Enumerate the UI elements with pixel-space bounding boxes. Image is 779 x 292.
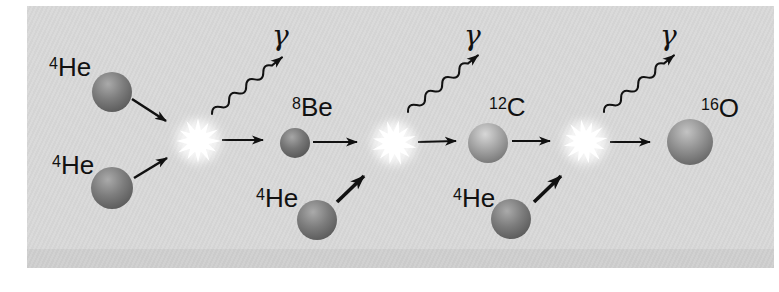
element-symbol: He: [462, 183, 495, 213]
mass-number: 4: [256, 186, 265, 203]
label-helium-top-left: 4He: [49, 54, 91, 80]
mass-number: 4: [453, 186, 462, 203]
collision-flash-1: [176, 118, 221, 163]
label-helium-bottom-left: 4He: [52, 152, 94, 178]
gamma-symbol: γ: [660, 19, 677, 52]
element-symbol: O: [719, 93, 739, 123]
label-gamma-1: γ: [272, 22, 289, 50]
label-carbon: 12C: [489, 94, 526, 120]
label-helium-middle: 4He: [256, 185, 298, 211]
element-symbol: Be: [301, 92, 333, 122]
gamma-symbol: γ: [272, 19, 289, 52]
collision-flash-3: [559, 115, 611, 167]
label-oxygen: 16O: [701, 95, 739, 121]
arrow-helium1-to-collision1: [132, 99, 166, 121]
collision-flash-2: [368, 116, 421, 169]
arrow-helium2-to-collision1: [134, 158, 167, 178]
element-symbol: He: [265, 183, 298, 213]
gamma-ray-wavy-arrow-1: [210, 55, 284, 117]
label-beryllium: 8Be: [292, 94, 333, 120]
mass-number: 4: [49, 55, 58, 72]
mass-number: 16: [701, 96, 719, 113]
mass-number: 12: [489, 95, 507, 112]
mass-number: 4: [52, 153, 61, 170]
gamma-symbol: γ: [464, 19, 481, 52]
element-symbol: He: [61, 150, 94, 180]
label-gamma-3: γ: [660, 22, 677, 50]
label-helium-right: 4He: [453, 185, 495, 211]
arrow-collision2-to-carbon: [418, 141, 456, 142]
element-symbol: He: [58, 52, 91, 82]
arrow-helium4-to-collision3: [534, 176, 561, 202]
element-symbol: C: [507, 92, 526, 122]
gamma-ray-wavy-arrow-3: [602, 53, 676, 115]
gamma-ray-wavy-arrow-2: [406, 53, 480, 115]
mass-number: 8: [292, 95, 301, 112]
arrow-helium3-to-collision2: [337, 176, 364, 202]
label-gamma-2: γ: [464, 22, 481, 50]
